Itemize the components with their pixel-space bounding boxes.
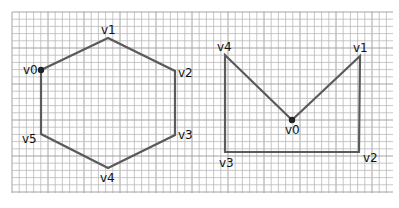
vertex-label: v2	[178, 66, 193, 80]
vertex-label: v4	[100, 171, 115, 185]
vertex-label: v0	[285, 123, 300, 137]
vertex-label: v3	[219, 156, 234, 170]
vertex-label: v2	[363, 151, 378, 165]
vertex-label: v5	[22, 132, 37, 146]
vertex-label: v0	[23, 63, 38, 77]
start-vertex-dot	[38, 67, 44, 73]
diagram-canvas: v0v1v2v3v4v5v0v1v2v3v4	[0, 0, 399, 208]
vertex-label: v4	[217, 40, 232, 54]
vertex-label: v1	[101, 23, 116, 37]
figure-notched-rectangle: v0v1v2v3v4	[217, 40, 378, 170]
vertex-label: v1	[353, 41, 368, 55]
grid-paper	[12, 12, 393, 193]
polygon-figures: v0v1v2v3v4v5v0v1v2v3v4	[22, 23, 378, 185]
vertex-label: v3	[178, 128, 193, 142]
